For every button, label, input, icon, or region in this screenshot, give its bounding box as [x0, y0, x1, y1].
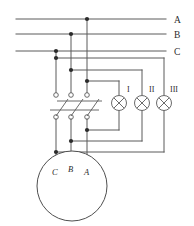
junction-dot-b-branch: [69, 68, 73, 72]
junction-dot-lead-b: [69, 139, 73, 143]
junction-dot-b-bus: [69, 32, 73, 36]
motor-terminal-label-b: B: [68, 164, 73, 174]
phase-label-b: B: [174, 30, 180, 40]
phase-drop-wires: [56, 19, 87, 93]
lamp-1[interactable]: I: [112, 85, 131, 111]
switch-terminal-top-1[interactable]: [54, 93, 59, 98]
junction-dot-a-branch: [85, 79, 89, 83]
lamp-2-label: II: [149, 85, 155, 94]
schematic-diagram: A B C: [0, 0, 194, 226]
schematic-canvas: A B C: [0, 0, 194, 226]
lamp-feed-branches: [56, 58, 164, 95]
phase-label-c: C: [174, 47, 180, 57]
motor-terminal-label-a: A: [83, 167, 90, 177]
lamp-1-label: I: [127, 85, 130, 94]
junction-dot-c-bus: [54, 49, 58, 53]
switch-terminal-top-3[interactable]: [85, 93, 90, 98]
phase-label-a: A: [174, 15, 181, 25]
junction-dot-a-bus: [85, 17, 89, 21]
lamp-3[interactable]: III: [157, 85, 179, 111]
switch-blade-1[interactable]: [56, 99, 68, 116]
lamp-2[interactable]: II: [135, 85, 155, 111]
phase-bus-lines: [16, 19, 166, 51]
junction-dot-c-branch: [54, 56, 58, 60]
junction-dot-lead-a: [85, 128, 89, 132]
switch-terminal-top-2[interactable]: [69, 93, 74, 98]
switch-blade-3[interactable]: [87, 99, 99, 116]
switch-blade-2[interactable]: [71, 99, 83, 116]
motor-symbol[interactable]: [37, 151, 107, 221]
lamp-3-label: III: [170, 85, 178, 94]
junction-dot-lead-c: [54, 150, 58, 154]
indicator-lamps: I II III: [112, 85, 179, 111]
three-pole-knife-switch[interactable]: [50, 93, 102, 120]
motor-terminal-label-c: C: [52, 167, 58, 177]
